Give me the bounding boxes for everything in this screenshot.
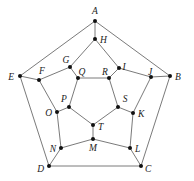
vertex-L	[128, 146, 132, 150]
vertex-label-A: A	[91, 6, 98, 16]
graph-labels: ABCDEFGHIJKLMNOPQRST	[7, 6, 181, 174]
vertex-label-I: I	[121, 62, 126, 72]
vertex-A	[93, 19, 97, 23]
vertex-D	[47, 164, 51, 168]
vertex-label-H: H	[99, 35, 108, 45]
vertex-label-F: F	[38, 66, 45, 76]
edge-K-L	[130, 113, 133, 148]
vertex-O	[55, 110, 59, 114]
vertex-label-P: P	[60, 94, 67, 104]
vertex-label-E: E	[7, 72, 14, 82]
edge-K-S	[118, 107, 133, 113]
edge-L-M	[93, 139, 130, 148]
vertex-H	[93, 37, 97, 41]
vertex-label-S: S	[123, 94, 128, 104]
edge-B-J	[151, 76, 170, 77]
vertex-label-Q: Q	[79, 67, 86, 77]
dodecahedron-graph: ABCDEFGHIJKLMNOPQRST	[0, 0, 194, 181]
vertex-B	[168, 74, 172, 78]
vertex-G	[68, 65, 72, 69]
vertex-label-C: C	[145, 164, 152, 174]
vertex-S	[116, 105, 120, 109]
vertex-K	[131, 111, 135, 115]
vertex-P	[67, 105, 71, 109]
vertex-label-R: R	[101, 67, 108, 77]
edge-T-P	[69, 107, 93, 125]
edge-H-G	[70, 39, 95, 67]
vertex-label-M: M	[88, 143, 98, 153]
edge-G-Q	[70, 67, 78, 78]
vertex-N	[59, 146, 63, 150]
vertex-T	[91, 123, 95, 127]
edge-B-C	[141, 76, 170, 166]
vertex-F	[37, 78, 41, 82]
vertex-E	[18, 74, 22, 78]
vertex-label-D: D	[36, 164, 44, 174]
edge-R-S	[109, 78, 118, 107]
vertex-label-K: K	[137, 109, 145, 119]
vertex-label-L: L	[134, 144, 140, 154]
edge-H-I	[95, 39, 119, 68]
vertex-label-T: T	[98, 122, 104, 132]
vertex-label-N: N	[49, 144, 57, 154]
edge-J-K	[133, 77, 151, 113]
vertex-label-G: G	[63, 55, 70, 65]
edge-P-Q	[69, 78, 78, 107]
vertex-label-B: B	[175, 72, 181, 82]
edge-I-R	[109, 68, 119, 78]
edge-S-T	[93, 107, 118, 125]
vertex-M	[91, 137, 95, 141]
vertex-label-O: O	[45, 108, 52, 118]
vertex-I	[117, 66, 121, 70]
edge-E-F	[20, 76, 39, 80]
vertex-C	[139, 164, 143, 168]
edge-N-O	[57, 112, 61, 148]
